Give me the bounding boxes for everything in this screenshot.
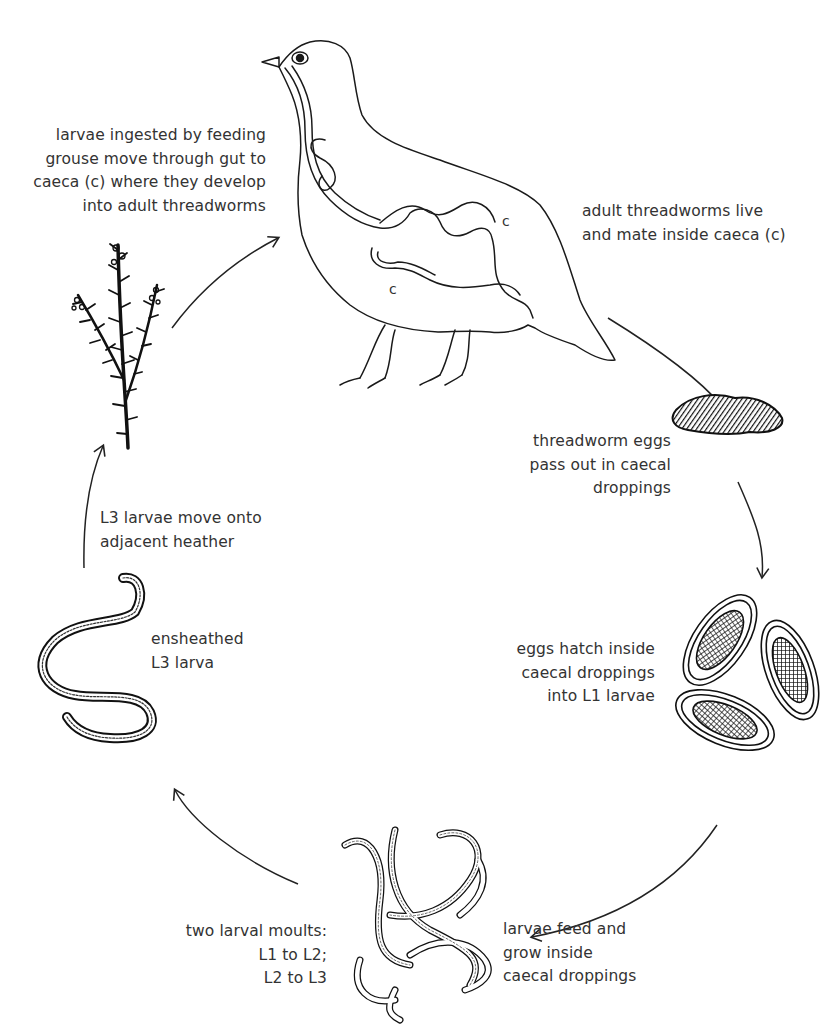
arrow-heather-to-grouse	[172, 238, 278, 328]
stage-moults-label: two larval moults: L1 to L2; L2 to L3	[186, 920, 327, 991]
stage-hatch-label: eggs hatch inside caecal droppings into …	[517, 638, 655, 709]
arrow-dropping-to-eggs	[738, 482, 763, 577]
cycle-arrows	[84, 238, 763, 937]
grouse-illustration	[262, 41, 615, 388]
caeca-marker-upper: c	[502, 213, 510, 229]
stage-feed-grow-label: larvae feed and grow inside caecal dropp…	[503, 918, 637, 989]
stage-eggs-out-label: threadworm eggs pass out in caecal dropp…	[530, 430, 671, 501]
heather-illustration	[72, 244, 164, 448]
stage-adults-label: adult threadworms live and mate inside c…	[582, 200, 786, 247]
eggs-illustration	[667, 582, 830, 762]
stage-ingestion-label: larvae ingested by feeding grouse move t…	[33, 124, 266, 218]
larvae-cluster-illustration	[345, 830, 488, 1020]
caeca-marker-lower: c	[389, 281, 397, 297]
caecal-dropping-illustration	[673, 395, 783, 434]
stage-migrate-label: L3 larvae move onto adjacent heather	[100, 507, 262, 554]
stage-ensheathed-label: ensheathed L3 larva	[151, 628, 244, 675]
ensheathed-larva-illustration	[42, 578, 152, 739]
arrow-grouse-to-dropping	[608, 318, 722, 406]
arrow-larvae-to-l3	[175, 790, 298, 884]
